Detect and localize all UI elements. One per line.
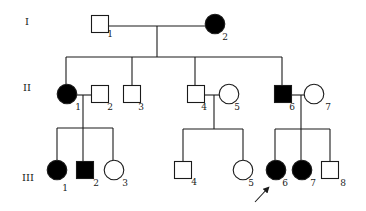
individual-number: 5: [234, 102, 240, 112]
affected-male-square-icon: [275, 86, 292, 103]
proband-arrow-icon: [255, 188, 268, 202]
individual-number: 8: [340, 178, 346, 188]
affected-female-circle-icon: [205, 14, 225, 34]
generation-label: II: [23, 82, 31, 93]
unaffected-male-square-icon: [92, 86, 109, 103]
individual-i-2: 2: [205, 14, 228, 42]
individual-number: 4: [191, 177, 197, 187]
unaffected-male-square-icon: [175, 162, 192, 179]
individual-number: 7: [310, 178, 316, 188]
individual-number: 4: [201, 102, 207, 112]
affected-female-circle-icon: [47, 160, 67, 180]
individual-iii-3: 3: [104, 160, 128, 188]
individual-ii-2: 2: [92, 86, 113, 113]
individual-iii-1: 1: [47, 160, 68, 193]
unaffected-female-circle-icon: [304, 84, 324, 104]
individual-number: 2: [107, 102, 113, 112]
unaffected-male-square-icon: [322, 162, 339, 179]
individual-iii-8: 8: [322, 162, 347, 189]
individual-iii-6: 6: [266, 160, 288, 188]
individual-iii-7: 7: [292, 160, 316, 188]
individual-ii-4: 4: [188, 86, 208, 113]
individual-number: 2: [222, 32, 228, 42]
individual-iii-5: 5: [233, 160, 254, 188]
unaffected-male-square-icon: [92, 16, 109, 33]
individual-number: 3: [122, 178, 128, 188]
individual-number: 2: [93, 178, 99, 188]
individual-number: 5: [248, 178, 254, 188]
individual-number: 1: [62, 183, 68, 193]
individual-ii-7: 7: [304, 84, 331, 112]
generation-label: III: [22, 172, 34, 183]
affected-female-circle-icon: [292, 160, 312, 180]
proband-arrow: [255, 188, 268, 202]
individual-iii-2: 2: [77, 162, 99, 189]
individual-number: 1: [107, 29, 113, 39]
generation-labels: IIIIII: [22, 16, 34, 183]
unaffected-female-circle-icon: [233, 160, 253, 180]
unaffected-male-square-icon: [124, 86, 141, 103]
pedigree-chart: IIIIII 12123456712345678: [0, 0, 366, 211]
generation-label: I: [25, 16, 29, 27]
individual-number: 1: [75, 102, 81, 112]
unaffected-female-circle-icon: [104, 160, 124, 180]
individual-number: 3: [138, 102, 144, 112]
unaffected-female-circle-icon: [219, 84, 239, 104]
individual-ii-3: 3: [124, 86, 145, 113]
affected-female-circle-icon: [57, 84, 77, 104]
individual-i-1: 1: [92, 16, 113, 40]
individual-ii-5: 5: [219, 84, 240, 112]
individual-ii-6: 6: [275, 86, 296, 113]
affected-female-circle-icon: [266, 160, 286, 180]
unaffected-male-square-icon: [188, 86, 205, 103]
individual-iii-4: 4: [175, 162, 198, 188]
affected-male-square-icon: [77, 162, 94, 179]
individual-number: 6: [282, 178, 288, 188]
individual-number: 6: [289, 102, 295, 112]
individual-number: 7: [325, 102, 331, 112]
individual-ii-1: 1: [57, 84, 81, 112]
